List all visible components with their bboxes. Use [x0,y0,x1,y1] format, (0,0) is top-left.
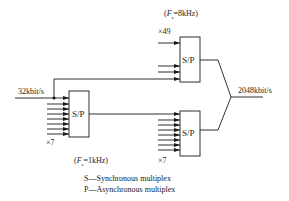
left-sp-label: S/P [72,110,85,119]
right-output-line [200,97,231,130]
right-box-inputs [158,120,180,150]
left-multiplier: ×7 [46,139,55,147]
freq-rest: =8kHz) [174,9,199,18]
freq-rest: =1kHz) [84,156,109,165]
branch-line [54,79,180,98]
diagram-canvas [0,0,289,201]
right-sp-label: S/P [182,129,195,138]
top-sp-label: S/P [182,56,195,65]
top-frame-frequency: (Fs=8kHz) [164,10,198,20]
left-box-inputs [47,104,69,134]
left-frame-frequency: (Fs=1kHz) [74,157,108,167]
top-box-inputs [158,43,180,72]
output-rate-label: 2048kbit/s [238,87,272,95]
top-output-line [200,60,231,97]
input-rate-label: 32kbit/s [18,88,44,96]
legend-asynchronous: P—Asynchronous multiplex [84,186,175,194]
junction-dot [52,96,55,99]
legend-synchronous: S—Synchronous multiplex [84,175,171,183]
right-multiplier: ×7 [158,157,167,165]
top-multiplier: ×49 [158,28,171,36]
